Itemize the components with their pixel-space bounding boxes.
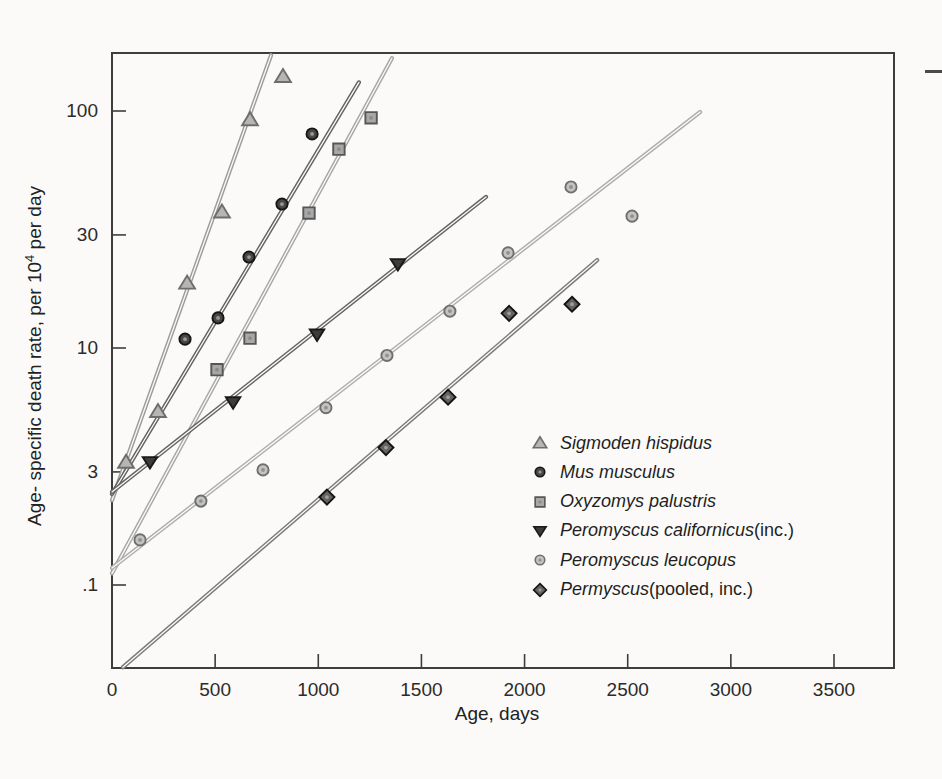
marker-sigmodon-4	[242, 112, 258, 125]
series-line-core-oxyzomys	[112, 58, 392, 573]
y-tick-label-100: 100	[36, 100, 98, 122]
x-tick-label-3500: 3500	[798, 679, 870, 701]
marker-mus-1-center	[216, 316, 220, 320]
legend-item-oxyzomys: Oxyzomys palustris	[529, 491, 716, 513]
marker-pooled-3-center	[507, 311, 511, 315]
legend-species-name: Permyscus	[560, 579, 649, 600]
legend-item-sigmodon: Sigmoden hispidus	[529, 432, 712, 454]
y-tick-label-3: 3	[36, 461, 98, 483]
y-tick-label-30: 30	[36, 224, 98, 246]
x-tick-label-3000: 3000	[695, 679, 767, 701]
marker-leucopus-1-center	[199, 499, 203, 503]
legend-marker-pooled-center	[538, 588, 541, 591]
legend-species-name: Peromyscus californicus	[560, 520, 754, 541]
series-line-core-pooled	[123, 260, 597, 667]
series-line-core-mus	[112, 82, 359, 494]
margin-dash-artifact	[925, 70, 942, 73]
legend-item-pooled: Permyscus (pooled, inc.)	[529, 579, 753, 601]
legend-annotation: (pooled, inc.)	[649, 579, 753, 600]
legend-item-mus: Mus musculus	[529, 461, 675, 483]
marker-leucopus-5-center	[448, 309, 452, 313]
circle-legend-swatch	[529, 462, 551, 482]
marker-leucopus-7-center	[569, 185, 573, 189]
marker-leucopus-6-center	[506, 251, 510, 255]
legend-marker-sigmodon	[533, 437, 546, 448]
marker-leucopus-0-center	[138, 538, 142, 542]
marker-mus-2-center	[247, 255, 251, 259]
legend-species-name: Mus musculus	[560, 462, 675, 483]
marker-leucopus-3-center	[324, 406, 328, 410]
legend-annotation: (inc.)	[754, 520, 794, 541]
marker-oxyzomys-3-center	[337, 147, 341, 151]
legend-marker-mus-center	[538, 471, 541, 474]
marker-leucopus-2-center	[261, 468, 265, 472]
marker-pooled-4-center	[570, 302, 574, 306]
marker-leucopus-8-center	[630, 214, 634, 218]
x-tick-label-2500: 2500	[592, 679, 664, 701]
marker-oxyzomys-4-center	[369, 116, 373, 120]
marker-pooled-0-center	[325, 495, 329, 499]
x-tick-label-500: 500	[179, 679, 251, 701]
y-axis-title-superscript: 4	[22, 255, 37, 262]
circle-legend-swatch	[529, 550, 551, 570]
legend-item-leucopus: Peromyscus leucopus	[529, 549, 736, 571]
marker-oxyzomys-0-center	[215, 368, 219, 372]
figure-page: Age- specific death rate, per 104 per da…	[0, 0, 942, 779]
marker-sigmodon-5	[275, 69, 291, 82]
x-axis-title: Age, days	[417, 703, 577, 725]
legend-item-californicus: Peromyscus californicus (inc.)	[529, 520, 794, 542]
x-tick-label-2000: 2000	[489, 679, 561, 701]
triangle-down-legend-swatch	[529, 521, 551, 541]
marker-oxyzomys-1-center	[248, 336, 252, 340]
x-tick-label-0: 0	[76, 679, 148, 701]
marker-pooled-1-center	[384, 446, 388, 450]
x-tick-label-1000: 1000	[282, 679, 354, 701]
legend-marker-leucopus-center	[538, 559, 541, 562]
square-legend-swatch	[529, 492, 551, 512]
legend-species-name: Oxyzomys palustris	[560, 491, 716, 512]
y-axis-title-text: Age- specific death rate, per 10	[24, 262, 45, 526]
legend-species-name: Peromyscus leucopus	[560, 550, 736, 571]
marker-mus-4-center	[310, 132, 314, 136]
y-tick-label-10: 10	[36, 337, 98, 359]
marker-oxyzomys-2-center	[307, 211, 311, 215]
marker-pooled-2-center	[446, 395, 450, 399]
diamond-legend-swatch	[529, 580, 551, 600]
legend-marker-californicus	[534, 527, 546, 537]
legend-marker-oxyzomys-center	[538, 500, 541, 503]
x-tick-label-1500: 1500	[385, 679, 457, 701]
legend-species-name: Sigmoden hispidus	[560, 433, 712, 454]
marker-mus-0-center	[183, 337, 187, 341]
scatter-plot	[0, 0, 942, 779]
triangle-up-legend-swatch	[529, 433, 551, 453]
marker-leucopus-4-center	[385, 354, 389, 358]
marker-mus-3-center	[280, 202, 284, 206]
y-tick-label-.1: .1	[36, 574, 98, 596]
